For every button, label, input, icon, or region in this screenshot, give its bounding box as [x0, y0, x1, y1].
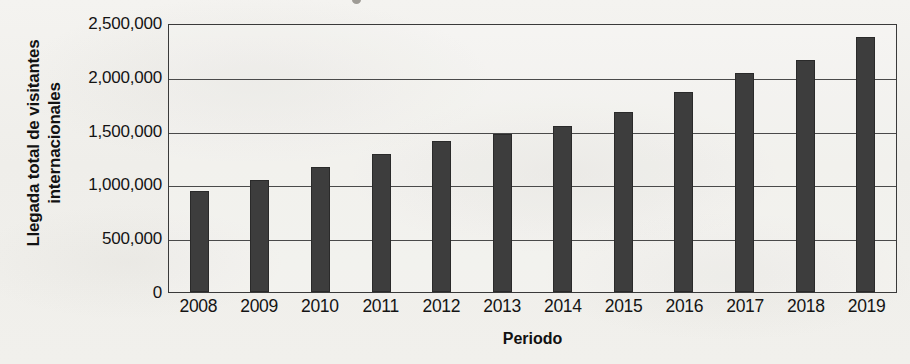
bar-slot [169, 25, 230, 292]
bar-slot [532, 25, 593, 292]
bar-chart-figure: Llegada total de visitantes internaciona… [0, 0, 910, 364]
bar-2009 [250, 180, 269, 292]
bar-2016 [674, 92, 693, 292]
x-axis-tick-label: 2017 [715, 296, 776, 317]
y-axis-tick-label: 0 [36, 283, 162, 303]
bar-slot [775, 25, 836, 292]
bar-2017 [735, 73, 754, 292]
bar-2010 [311, 167, 330, 292]
bar-series [169, 25, 896, 292]
bar-2019 [856, 37, 875, 292]
x-axis-tick-label: 2010 [290, 296, 351, 317]
x-axis-tick-label: 2009 [229, 296, 290, 317]
bar-2011 [372, 154, 391, 292]
bar-slot [593, 25, 654, 292]
bar-2014 [553, 126, 572, 292]
plot-area [168, 24, 897, 293]
bar-2018 [796, 60, 815, 292]
x-axis-tick-label: 2016 [654, 296, 715, 317]
y-axis-tick-label: 1,500,000 [36, 122, 162, 142]
bar-slot [714, 25, 775, 292]
x-axis-title: Periodo [168, 330, 897, 348]
bar-2008 [190, 191, 209, 292]
x-axis-tick-label: 2018 [776, 296, 837, 317]
x-axis-tick-label: 2015 [593, 296, 654, 317]
x-axis-tick-label: 2019 [836, 296, 897, 317]
y-axis-tick-label: 1,000,000 [36, 175, 162, 195]
x-axis-tick-labels: 2008 2009 2010 2011 2012 2013 2014 2015 … [168, 296, 897, 317]
x-axis-tick-label: 2014 [533, 296, 594, 317]
y-axis-tick-label: 500,000 [36, 229, 162, 249]
bar-slot [654, 25, 715, 292]
x-axis-tick-label: 2011 [350, 296, 411, 317]
y-axis-tick-labels: 2,500,000 2,000,000 1,500,000 1,000,000 … [36, 0, 162, 364]
y-axis-tick-label: 2,500,000 [36, 14, 162, 34]
bar-slot [411, 25, 472, 292]
y-axis-tick-label: 2,000,000 [36, 68, 162, 88]
bar-2012 [432, 141, 451, 292]
bar-slot [835, 25, 896, 292]
bar-slot [472, 25, 533, 292]
bar-2013 [493, 134, 512, 292]
x-axis-tick-label: 2013 [472, 296, 533, 317]
bar-slot [230, 25, 291, 292]
x-axis-tick-label: 2008 [168, 296, 229, 317]
bar-slot [351, 25, 412, 292]
bar-slot [290, 25, 351, 292]
cropped-title-glyph [352, 0, 361, 4]
bar-2015 [614, 112, 633, 292]
x-axis-tick-label: 2012 [411, 296, 472, 317]
